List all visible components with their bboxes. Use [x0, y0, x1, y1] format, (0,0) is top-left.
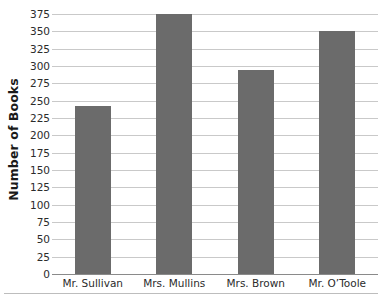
x-axis-tick-label: Mrs. Mullins	[134, 277, 216, 289]
y-axis-tick-label: 125	[26, 182, 50, 192]
y-axis-tick-label: 25	[26, 252, 50, 262]
y-axis-tick-label: 300	[26, 61, 50, 71]
y-axis-tick-label: 250	[26, 96, 50, 106]
y-axis-tick-label: 375	[26, 9, 50, 19]
x-axis-tick-label: Mrs. Brown	[215, 277, 297, 289]
gridline	[52, 14, 378, 15]
y-axis-tick-label: 200	[26, 130, 50, 140]
y-axis-tick-label: 175	[26, 148, 50, 158]
y-axis-tick-label: 0	[26, 269, 50, 279]
bar-chart: Number of Books 375350325300275250225200…	[0, 0, 382, 302]
y-axis-tick-label: 225	[26, 113, 50, 123]
x-axis-line	[52, 274, 378, 275]
y-axis-tick-labels: 3753503253002752502252001751501251007550…	[26, 0, 50, 302]
bar	[319, 31, 355, 274]
y-axis-tick-label: 100	[26, 200, 50, 210]
x-axis-tick-label: Mr. O’Toole	[297, 277, 379, 289]
bar	[156, 14, 192, 274]
y-axis-tick-label: 50	[26, 234, 50, 244]
x-axis-tick-labels: Mr. SullivanMrs. MullinsMrs. BrownMr. O’…	[52, 277, 378, 293]
bar	[238, 70, 274, 274]
plot-area	[52, 14, 378, 274]
y-axis-tick-label: 150	[26, 165, 50, 175]
y-axis-title: Number of Books	[0, 0, 26, 278]
y-axis-tick-label: 325	[26, 44, 50, 54]
chart-bottom-rule	[4, 293, 378, 294]
y-axis-tick-label: 275	[26, 78, 50, 88]
y-axis-tick-label: 75	[26, 217, 50, 227]
y-axis-tick-label: 350	[26, 26, 50, 36]
x-axis-tick-label: Mr. Sullivan	[52, 277, 134, 289]
bar	[75, 106, 111, 274]
y-axis-title-text: Number of Books	[6, 78, 21, 201]
